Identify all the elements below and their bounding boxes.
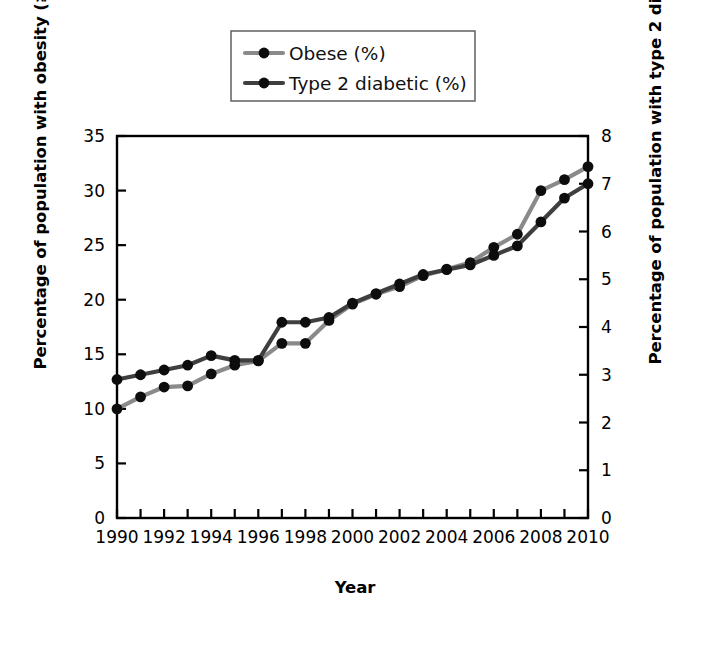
y-right-tick-label: 8 [601, 126, 612, 146]
data-point [276, 317, 287, 328]
data-point [394, 279, 405, 290]
data-point [229, 355, 240, 366]
data-point [536, 217, 547, 228]
y-left-tick-label: 0 [94, 508, 105, 528]
data-point [112, 374, 123, 385]
data-point [300, 317, 311, 328]
x-tick-label: 2008 [519, 527, 562, 547]
x-tick-label: 1992 [142, 527, 185, 547]
series-1 [112, 161, 594, 414]
data-point [583, 178, 594, 189]
y-right-tick-label: 2 [601, 413, 612, 433]
chart-legend: Obese (%)Type 2 diabetic (%) [231, 31, 475, 101]
data-point [159, 365, 170, 376]
y-right-tick-label: 5 [601, 269, 612, 289]
data-point [206, 369, 217, 380]
chart-figure: Percentage of population with obesity (≥… [0, 0, 710, 646]
legend-label: Obese (%) [289, 43, 386, 64]
x-tick-label: 2000 [331, 527, 374, 547]
x-tick-label: 1998 [284, 527, 327, 547]
y-right-tick-label: 6 [601, 222, 612, 242]
chart-canvas: 0510152025303501234567819901992199419961… [0, 0, 710, 646]
y-left-tick-label: 10 [83, 399, 105, 419]
data-point [135, 391, 146, 402]
x-tick-label: 2004 [425, 527, 468, 547]
y-left-tick-label: 15 [83, 344, 105, 364]
y-right-tick-label: 0 [601, 508, 612, 528]
x-tick-label: 1990 [95, 527, 138, 547]
series-line [117, 184, 588, 380]
x-axis-title: Year [0, 578, 710, 597]
data-point [465, 260, 476, 271]
data-point [112, 403, 123, 414]
series-2 [112, 178, 594, 385]
data-point [182, 360, 193, 371]
data-point [253, 355, 264, 366]
data-point [347, 298, 358, 309]
y-left-tick-label: 35 [83, 126, 105, 146]
y-right-tick-label: 1 [601, 460, 612, 480]
data-point [536, 185, 547, 196]
x-tick-label: 1994 [190, 527, 233, 547]
y-left-tick-label: 30 [83, 181, 105, 201]
data-point [324, 312, 335, 323]
y-right-tick-label: 3 [601, 365, 612, 385]
data-point [182, 381, 193, 392]
legend-swatch-marker [259, 48, 270, 59]
x-tick-label: 2006 [472, 527, 515, 547]
data-point [418, 269, 429, 280]
data-point [135, 369, 146, 380]
axis-ticks [117, 136, 588, 518]
data-point [276, 338, 287, 349]
y-left-tick-label: 25 [83, 235, 105, 255]
legend-label: Type 2 diabetic (%) [288, 73, 467, 94]
y-right-tick-label: 4 [601, 317, 612, 337]
y-right-tick-label: 7 [601, 174, 612, 194]
data-series-layer [112, 161, 594, 414]
data-point [441, 264, 452, 275]
data-point [583, 161, 594, 172]
y-left-tick-label: 20 [83, 290, 105, 310]
x-tick-label: 2010 [566, 527, 609, 547]
data-point [300, 338, 311, 349]
y-left-axis-title: Percentage of population with obesity (≥… [31, 0, 50, 370]
data-point [559, 174, 570, 185]
x-tick-label: 1996 [237, 527, 280, 547]
plot-frame [117, 136, 588, 518]
y-left-tick-label: 5 [94, 453, 105, 473]
data-point [206, 350, 217, 361]
data-point [488, 250, 499, 261]
data-point [512, 229, 523, 240]
plot-border [117, 136, 588, 518]
data-point [371, 288, 382, 299]
axis-tick-labels: 0510152025303501234567819901992199419961… [83, 126, 611, 547]
x-tick-label: 2002 [378, 527, 421, 547]
data-point [559, 193, 570, 204]
y-right-axis-title: Percentage of population with type 2 dia… [646, 0, 665, 365]
data-point [159, 382, 170, 393]
series-line [117, 167, 588, 409]
legend-swatch-marker [259, 78, 270, 89]
data-point [512, 240, 523, 251]
